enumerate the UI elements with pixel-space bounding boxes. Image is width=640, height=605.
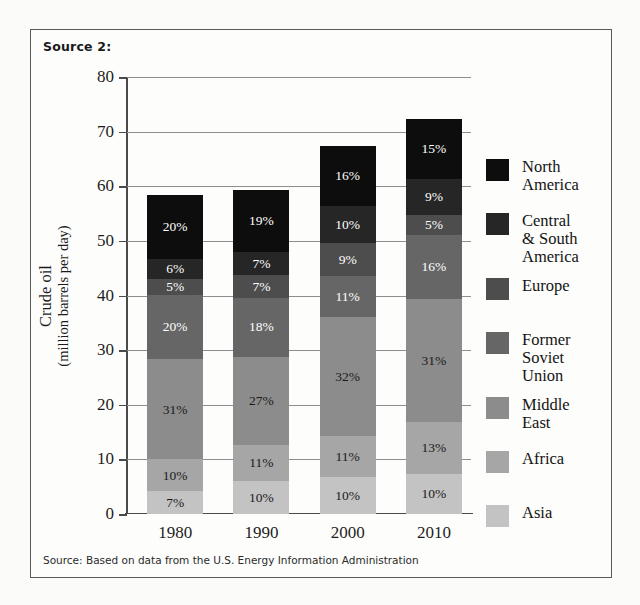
legend-item-central-south-america[interactable]: Central & South America bbox=[486, 212, 579, 266]
bar-segment-label: 19% bbox=[249, 214, 274, 228]
y-axis-tick-label: 70 bbox=[97, 122, 114, 142]
source-figure-frame: Source 2: Crude oil (million barrels per… bbox=[30, 29, 612, 578]
x-axis-tick-label: 2000 bbox=[331, 523, 365, 543]
bar-segment[interactable]: 10% bbox=[320, 477, 376, 514]
y-axis-tick-label: 50 bbox=[97, 231, 114, 251]
bar-segment[interactable]: 7% bbox=[147, 491, 203, 514]
legend-swatch bbox=[486, 397, 509, 419]
bar-segment-label: 9% bbox=[425, 190, 443, 204]
bar-segment-label: 10% bbox=[335, 218, 360, 232]
bar-segment[interactable]: 5% bbox=[147, 279, 203, 295]
bar-segment[interactable]: 31% bbox=[147, 359, 203, 459]
legend-label: Asia bbox=[522, 504, 552, 522]
y-axis-tick bbox=[119, 514, 127, 516]
bar-segment[interactable]: 32% bbox=[320, 317, 376, 436]
bar-segment-label: 7% bbox=[252, 280, 270, 294]
bar-stack: 10%11%27%18%7%7%19% bbox=[233, 186, 289, 514]
y-axis-tick-label: 80 bbox=[97, 67, 114, 87]
legend-swatch bbox=[486, 213, 509, 235]
bar-segment-label: 13% bbox=[422, 441, 447, 455]
legend-item-europe[interactable]: Europe bbox=[486, 277, 570, 300]
legend-swatch bbox=[486, 159, 509, 181]
bar-segment-label: 20% bbox=[163, 220, 188, 234]
bar-segment[interactable]: 11% bbox=[320, 436, 376, 477]
bar-segment-label: 11% bbox=[336, 290, 360, 304]
bar-segment[interactable]: 6% bbox=[147, 259, 203, 278]
bar-segment-label: 10% bbox=[163, 469, 188, 483]
bar-segment-label: 20% bbox=[163, 320, 188, 334]
legend-label: Middle East bbox=[522, 396, 570, 432]
bar-segment[interactable]: 20% bbox=[147, 295, 203, 359]
bars-layer: 7%10%31%20%5%6%20%198010%11%27%18%7%7%19… bbox=[126, 77, 471, 514]
bar-segment[interactable]: 10% bbox=[233, 481, 289, 514]
bar-segment[interactable]: 13% bbox=[406, 422, 462, 474]
bar-segment-label: 6% bbox=[166, 262, 184, 276]
y-axis-tick-label: 0 bbox=[106, 504, 115, 524]
bar-group-1980: 7%10%31%20%5%6%20%1980 bbox=[147, 77, 203, 514]
bar-segment[interactable]: 10% bbox=[320, 206, 376, 243]
source-header-label: Source 2: bbox=[43, 39, 111, 54]
y-axis-tick-label: 40 bbox=[97, 286, 114, 306]
bar-segment-label: 11% bbox=[249, 456, 273, 470]
bar-segment[interactable]: 31% bbox=[406, 299, 462, 423]
bar-stack: 10%11%32%11%9%10%16% bbox=[320, 143, 376, 514]
chart-plot-area: Crude oil (million barrels per day) 0102… bbox=[126, 77, 471, 514]
bar-segment-label: 5% bbox=[166, 280, 184, 294]
bar-segment[interactable]: 19% bbox=[233, 190, 289, 252]
bar-segment-label: 31% bbox=[163, 403, 188, 417]
bar-segment[interactable]: 16% bbox=[406, 235, 462, 299]
bar-segment-label: 15% bbox=[422, 142, 447, 156]
bar-segment-label: 7% bbox=[252, 257, 270, 271]
bar-segment-label: 7% bbox=[166, 496, 184, 510]
bar-segment[interactable]: 18% bbox=[233, 298, 289, 357]
bar-segment[interactable]: 5% bbox=[406, 215, 462, 235]
legend-item-north-america[interactable]: North America bbox=[486, 158, 579, 194]
bar-segment[interactable]: 11% bbox=[233, 445, 289, 481]
legend-item-middle-east[interactable]: Middle East bbox=[486, 396, 570, 432]
bar-group-2000: 10%11%32%11%9%10%16%2000 bbox=[320, 77, 376, 514]
bar-segment[interactable]: 10% bbox=[147, 459, 203, 491]
bar-segment[interactable]: 11% bbox=[320, 276, 376, 317]
y-axis-tick-label: 30 bbox=[97, 340, 114, 360]
legend-label: Europe bbox=[522, 277, 570, 295]
legend-swatch bbox=[486, 505, 509, 527]
bar-segment-label: 11% bbox=[336, 450, 360, 464]
legend-item-asia[interactable]: Asia bbox=[486, 504, 552, 527]
bar-segment-label: 10% bbox=[422, 487, 447, 501]
bar-segment-label: 16% bbox=[422, 260, 447, 274]
bar-segment[interactable]: 7% bbox=[233, 252, 289, 275]
x-axis-tick-label: 1980 bbox=[158, 523, 192, 543]
bar-segment-label: 10% bbox=[335, 489, 360, 503]
bar-group-2010: 10%13%31%16%5%9%15%2010 bbox=[406, 77, 462, 514]
source-footnote: Source: Based on data from the U.S. Ener… bbox=[43, 554, 419, 566]
legend-item-former-soviet-union[interactable]: Former Soviet Union bbox=[486, 331, 571, 385]
bar-segment-label: 16% bbox=[335, 169, 360, 183]
bar-stack: 10%13%31%16%5%9%15% bbox=[406, 115, 462, 514]
x-axis-tick-label: 1990 bbox=[244, 523, 278, 543]
bar-segment[interactable]: 7% bbox=[233, 275, 289, 298]
bar-stack: 7%10%31%20%5%6%20% bbox=[147, 192, 203, 514]
legend-label: Central & South America bbox=[522, 212, 579, 266]
legend-swatch bbox=[486, 332, 509, 354]
y-axis-tick-label: 60 bbox=[97, 176, 114, 196]
legend-label: Africa bbox=[522, 450, 564, 468]
bar-segment-label: 5% bbox=[425, 218, 443, 232]
y-axis-title: Crude oil (million barrels per day) bbox=[37, 225, 72, 366]
bar-segment-label: 9% bbox=[339, 253, 357, 267]
bar-segment-label: 31% bbox=[422, 354, 447, 368]
legend-item-africa[interactable]: Africa bbox=[486, 450, 564, 473]
bar-segment[interactable]: 15% bbox=[406, 119, 462, 179]
legend-swatch bbox=[486, 278, 509, 300]
legend-label: Former Soviet Union bbox=[522, 331, 571, 385]
y-axis-title-main: Crude oil bbox=[36, 265, 55, 327]
bar-segment[interactable]: 9% bbox=[320, 243, 376, 276]
bar-segment[interactable]: 16% bbox=[320, 146, 376, 205]
y-axis-title-sub: (million barrels per day) bbox=[55, 225, 71, 366]
bar-segment[interactable]: 27% bbox=[233, 357, 289, 445]
y-axis-tick-label: 10 bbox=[97, 449, 114, 469]
bar-segment[interactable]: 9% bbox=[406, 179, 462, 215]
bar-segment[interactable]: 10% bbox=[406, 474, 462, 514]
y-axis-tick-label: 20 bbox=[97, 395, 114, 415]
bar-segment-label: 10% bbox=[249, 491, 274, 505]
bar-segment[interactable]: 20% bbox=[147, 195, 203, 259]
